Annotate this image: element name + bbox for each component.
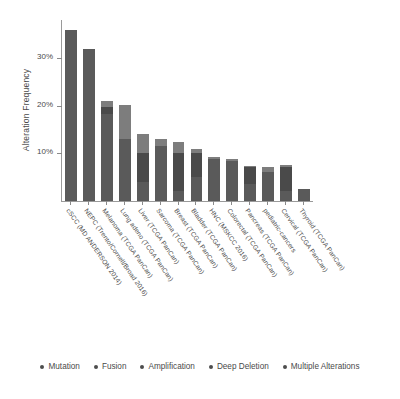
bar-column[interactable] — [101, 101, 113, 201]
legend-color-dot-icon — [140, 365, 144, 369]
bar-column[interactable] — [208, 157, 220, 201]
legend-item[interactable]: Multiple Alterations — [283, 362, 360, 371]
bar-segment[interactable] — [226, 161, 238, 201]
bar-segment[interactable] — [280, 191, 292, 201]
chart-legend: MutationFusionAmplificationDeep Deletion… — [0, 362, 400, 371]
bar-segment[interactable] — [244, 184, 256, 201]
bar-segment[interactable] — [155, 139, 167, 146]
bar-column[interactable] — [173, 142, 185, 201]
bar-column[interactable] — [191, 149, 203, 201]
legend-item[interactable]: Mutation — [40, 362, 79, 371]
legend-item[interactable]: Fusion — [94, 362, 127, 371]
bar-segment[interactable] — [280, 167, 292, 192]
legend-label: Mutation — [48, 362, 79, 371]
legend-color-dot-icon — [40, 365, 44, 369]
legend-label: Amplification — [148, 362, 194, 371]
y-tick-label: 30% — [37, 52, 53, 61]
bar-column[interactable] — [155, 139, 167, 201]
bar-column[interactable] — [83, 49, 95, 201]
bar-column[interactable] — [137, 134, 149, 201]
bar-column[interactable] — [244, 166, 256, 201]
y-tick-label: 10% — [37, 147, 53, 156]
x-axis-labels: cSCC (MD ANDERSON 2014)NEPC (Trento/Corn… — [61, 201, 391, 321]
y-tick-label: 20% — [37, 100, 53, 109]
bar-segment[interactable] — [298, 189, 310, 201]
bar-segment[interactable] — [101, 107, 113, 114]
bar-segment[interactable] — [173, 153, 185, 190]
bar-segment[interactable] — [208, 159, 220, 201]
bar-column[interactable] — [262, 167, 274, 201]
bar-group — [62, 20, 313, 201]
bar-column[interactable] — [65, 30, 77, 201]
legend-color-dot-icon — [283, 365, 287, 369]
bar-column[interactable] — [298, 189, 310, 201]
bar-segment[interactable] — [137, 182, 149, 201]
legend-item[interactable]: Amplification — [140, 362, 194, 371]
bar-column[interactable] — [280, 165, 292, 201]
bar-segment[interactable] — [244, 167, 256, 184]
bar-segment[interactable] — [262, 172, 274, 201]
legend-item[interactable]: Deep Deletion — [209, 362, 269, 371]
bar-segment[interactable] — [119, 105, 131, 139]
bar-segment[interactable] — [191, 153, 203, 177]
legend-label: Fusion — [102, 362, 127, 371]
legend-label: Multiple Alterations — [291, 362, 360, 371]
bar-segment[interactable] — [119, 139, 131, 201]
bar-column[interactable] — [226, 159, 238, 201]
bar-segment[interactable] — [191, 177, 203, 201]
bar-segment[interactable] — [137, 134, 149, 153]
bar-segment[interactable] — [137, 153, 149, 182]
bar-segment[interactable] — [101, 114, 113, 201]
bar-segment[interactable] — [83, 49, 95, 201]
bar-segment[interactable] — [173, 191, 185, 201]
alteration-frequency-chart: Alteration Frequency 10%20%30% cSCC (MD … — [0, 0, 400, 399]
legend-color-dot-icon — [94, 365, 98, 369]
bar-segment[interactable] — [173, 142, 185, 153]
bar-segment[interactable] — [65, 30, 77, 201]
bar-segment[interactable] — [155, 146, 167, 201]
plot-area: 10%20%30% — [61, 20, 313, 201]
legend-color-dot-icon — [209, 365, 213, 369]
x-axis-label: pediatric-cancers — [262, 207, 298, 254]
legend-label: Deep Deletion — [217, 362, 269, 371]
bar-column[interactable] — [119, 105, 131, 201]
y-axis-title: Alteration Frequency — [21, 40, 31, 180]
